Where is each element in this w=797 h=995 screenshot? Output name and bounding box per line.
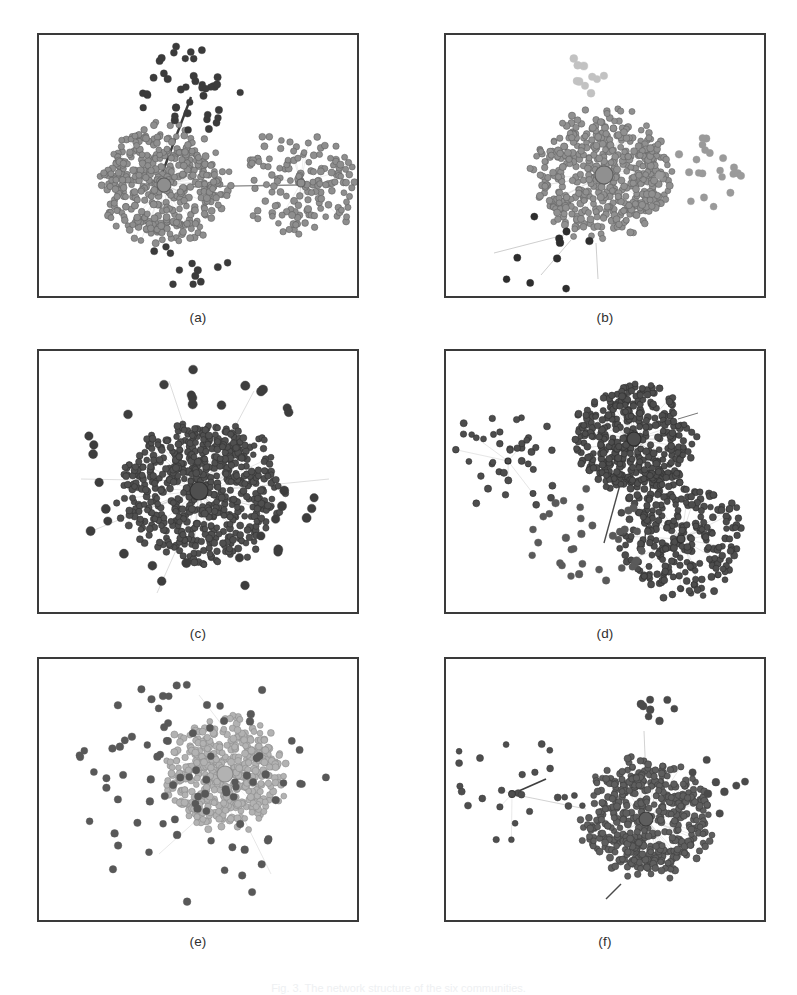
hub-node	[595, 166, 613, 184]
bridge-edge	[606, 884, 621, 899]
hub-node	[677, 535, 685, 543]
hub-node	[157, 178, 171, 192]
node-layer	[97, 43, 357, 288]
hub-node	[297, 179, 305, 187]
node-layer	[76, 681, 330, 905]
network-graph-c	[37, 349, 359, 614]
node-layer	[452, 381, 744, 601]
node-layer	[85, 365, 319, 590]
bridge-edge	[678, 413, 698, 419]
bridge-edge	[596, 243, 598, 279]
network-graph-a	[37, 33, 359, 298]
panel-a: (a)	[37, 33, 359, 328]
panel-label-e: (e)	[37, 934, 359, 950]
panel-e: (e)	[37, 657, 359, 952]
bridge-edge	[494, 235, 564, 253]
network-canvas-b	[446, 35, 764, 296]
network-canvas-a	[39, 35, 357, 296]
hub-node	[509, 791, 516, 798]
panel-label-d: (d)	[444, 626, 766, 642]
network-canvas-d	[446, 351, 764, 612]
figure-caption: Fig. 3. The network structure of the six…	[0, 982, 797, 995]
hub-node	[639, 812, 653, 826]
network-canvas-e	[39, 659, 357, 920]
network-canvas-f	[446, 659, 764, 920]
panel-label-f: (f)	[444, 934, 766, 950]
panel-label-c: (c)	[37, 626, 359, 642]
panel-label-a: (a)	[37, 310, 359, 326]
figure-root: (a)(b)(c)(d)(e)(f) Fig. 3. The network s…	[0, 0, 797, 995]
hub-node	[190, 482, 208, 500]
network-canvas-c	[39, 351, 357, 612]
hub-node	[505, 458, 511, 464]
panel-label-b: (b)	[444, 310, 766, 326]
hub-node	[627, 432, 641, 446]
network-graph-e	[37, 657, 359, 922]
hub-node	[217, 766, 233, 782]
panel-d: (d)	[444, 349, 766, 644]
panel-f: (f)	[444, 657, 766, 952]
network-graph-f	[444, 657, 766, 922]
panel-c: (c)	[37, 349, 359, 644]
panel-grid: (a)(b)(c)(d)(e)(f)	[0, 0, 797, 995]
panel-b: (b)	[444, 33, 766, 328]
network-graph-d	[444, 349, 766, 614]
network-graph-b	[444, 33, 766, 298]
bridge-edge	[199, 695, 225, 729]
node-layer	[456, 696, 749, 881]
